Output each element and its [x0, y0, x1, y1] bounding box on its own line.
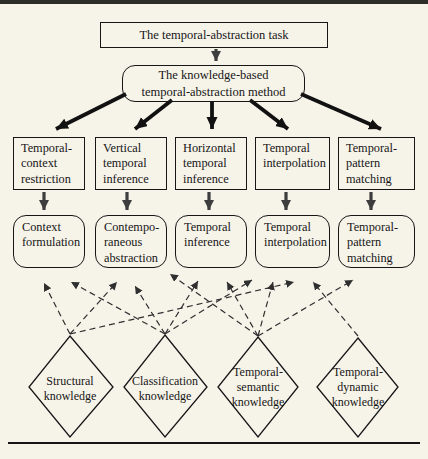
label-structural-knowledge: Structuralknowledge	[18, 374, 122, 404]
task-box-label: The temporal-abstraction task	[139, 28, 288, 43]
dashed-structural-to-context-formulation	[44, 283, 70, 334]
arrow-method-to-pattern-matching	[301, 94, 381, 129]
task-box: The temporal-abstraction task	[100, 22, 328, 48]
label-temporal-dynamic-knowledge: Temporal-dynamicknowledge	[306, 365, 410, 410]
label-classification-knowledge: Classificationknowledge	[113, 374, 217, 404]
figure-temporal-abstraction-diagram: The temporal-abstraction task The knowle…	[0, 0, 428, 459]
dashed-structural-to-contemporaneous	[70, 282, 117, 334]
figure-bottom-rule	[8, 442, 420, 444]
subtask-temporal-interpolation: Temporalinterpolation	[255, 137, 330, 190]
arrow-method-to-interpolation	[250, 100, 288, 129]
subtask-temporal-pattern-matching: Temporal-patternmatching	[338, 137, 415, 190]
mechanism-temporal-pattern-matching: Temporal-patternmatching	[338, 215, 415, 268]
arrow-method-to-context-restriction	[56, 94, 126, 129]
subtask-horizontal-temporal-inference: Horizontaltemporalinference	[175, 137, 247, 190]
dashed-classification-to-contemporaneous	[135, 286, 165, 334]
dashed-semantic-to-pattern-matching	[258, 280, 353, 336]
mechanism-contemporaneous-abstraction: Contempo-raneousabstraction	[95, 215, 167, 268]
dashed-classification-to-interpolation	[165, 280, 252, 334]
dashed-classification-to-temporal-inference	[165, 281, 198, 334]
subtask-temporal-context-restriction: Temporal-contextrestriction	[13, 137, 85, 190]
dashed-semantic-to-temporal-inference	[227, 282, 258, 336]
arrow-method-to-vertical-inference	[135, 100, 172, 129]
subtask-vertical-temporal-inference: Verticaltemporalinference	[95, 137, 167, 190]
dashed-classification-to-context-formulation	[71, 282, 165, 334]
mechanism-temporal-interpolation: Temporalinterpolation	[255, 215, 330, 268]
mechanism-context-formulation: Contextformulation	[13, 215, 85, 268]
method-box: The knowledge-basedtemporal-abstraction …	[122, 65, 305, 102]
mechanism-temporal-inference: Temporalinference	[175, 215, 247, 268]
label-temporal-semantic-knowledge: Temporal-semanticknowledge	[206, 365, 310, 410]
